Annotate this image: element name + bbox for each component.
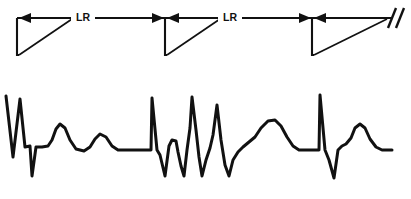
- triangle-1: [17, 18, 72, 55]
- triangle-1-vertical: [17, 18, 19, 55]
- interruption-slash-2: [396, 8, 404, 28]
- ecg-waveform-trace: [6, 95, 392, 178]
- arrow-right-icon-1: [152, 13, 164, 23]
- lr-label-1: LR: [76, 11, 90, 23]
- triangle-2-vertical: [165, 18, 167, 55]
- triangle-3-vertical: [312, 18, 314, 55]
- arrow-right-icon-2: [299, 13, 311, 23]
- arrow-left-icon-2: [167, 13, 179, 23]
- triangle-3: [312, 18, 387, 55]
- triangle-3-hypotenuse: [314, 19, 387, 55]
- figure-root: LR LR: [0, 0, 411, 199]
- arrow-left-icon-1: [19, 13, 31, 23]
- triangle-2: [165, 18, 220, 55]
- ladder-diagram: LR LR: [17, 8, 404, 55]
- lr-label-group-2: LR: [218, 10, 242, 26]
- triangle-2-hypotenuse: [167, 19, 220, 55]
- ecg-rhythm-strip: [6, 95, 392, 178]
- figure-canvas: LR LR: [0, 0, 411, 199]
- arrow-left-icon-3: [314, 13, 326, 23]
- lr-label-group-1: LR: [71, 10, 95, 26]
- triangle-1-hypotenuse: [19, 19, 72, 55]
- lr-label-2: LR: [223, 11, 237, 23]
